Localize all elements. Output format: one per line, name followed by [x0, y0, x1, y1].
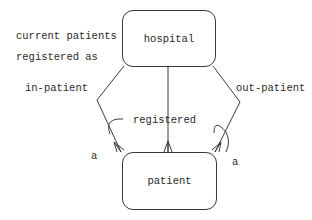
entity-patient-label: patient: [147, 175, 191, 187]
note-line-2: registered as: [16, 51, 98, 63]
exclusive-arc-right-label: a: [232, 156, 238, 168]
in-patient-relationship-line: [97, 66, 124, 152]
out-patient-crows-foot-icon: [212, 142, 221, 152]
note-line-1: current patients: [16, 30, 117, 42]
registered-label: registered: [133, 114, 196, 126]
out-patient-label: out-patient: [236, 82, 305, 94]
in-patient-label: in-patient: [25, 82, 88, 94]
out-patient-relationship-line: [213, 66, 240, 152]
exclusive-arc-left-icon: [109, 119, 123, 134]
registered-crows-foot-icon: [164, 141, 172, 152]
exclusive-arc-left-label: a: [91, 150, 97, 162]
entity-patient[interactable]: patient: [122, 152, 217, 210]
entity-hospital[interactable]: hospital: [122, 10, 216, 67]
er-diagram: hospital patient current patients regist…: [0, 0, 312, 220]
entity-hospital-label: hospital: [144, 33, 194, 45]
